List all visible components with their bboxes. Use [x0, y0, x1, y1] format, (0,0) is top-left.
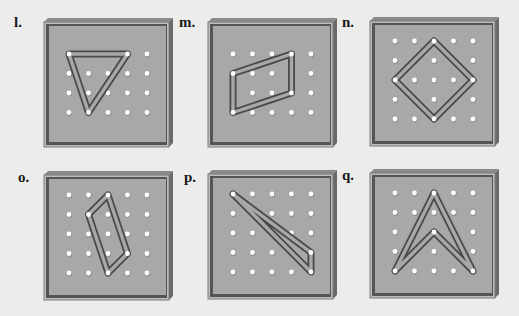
label-q: q. [342, 168, 354, 183]
peg [289, 211, 294, 216]
peg [393, 39, 398, 44]
peg [231, 211, 236, 216]
geoboard-n [369, 16, 499, 146]
peg [393, 58, 398, 63]
peg [270, 270, 275, 275]
peg [432, 78, 437, 83]
peg [106, 212, 111, 217]
peg [125, 91, 130, 96]
board-side-bevel [333, 170, 337, 299]
peg [471, 269, 476, 274]
peg [432, 39, 437, 44]
peg [231, 71, 236, 76]
geoboard-p [207, 169, 337, 299]
peg [309, 110, 314, 115]
peg [471, 58, 476, 63]
peg [250, 71, 255, 76]
peg [125, 110, 130, 115]
peg [67, 271, 72, 276]
label-m: m. [179, 15, 195, 30]
peg [451, 210, 456, 215]
peg [309, 270, 314, 275]
peg [432, 97, 437, 102]
peg [125, 232, 130, 237]
board-side-bevel [495, 169, 499, 298]
peg [451, 78, 456, 83]
geoboard-l [43, 17, 173, 147]
board-top-bevel [208, 18, 337, 22]
board-top-bevel [44, 18, 173, 22]
peg [412, 78, 417, 83]
board-side-bevel [495, 17, 499, 146]
board-top-bevel [370, 169, 499, 173]
peg [145, 271, 150, 276]
peg [393, 269, 398, 274]
peg [106, 110, 111, 115]
peg [289, 110, 294, 115]
peg [289, 270, 294, 275]
board-top-bevel [208, 170, 337, 174]
peg [250, 110, 255, 115]
peg [412, 210, 417, 215]
peg [125, 212, 130, 217]
peg [289, 52, 294, 57]
peg [250, 192, 255, 197]
peg [471, 230, 476, 235]
peg [451, 269, 456, 274]
peg [231, 52, 236, 57]
peg [270, 250, 275, 255]
peg [393, 117, 398, 122]
peg [67, 232, 72, 237]
peg [451, 191, 456, 196]
peg [270, 71, 275, 76]
peg [86, 71, 91, 76]
geoboard-o [43, 170, 173, 300]
geoboard-m [207, 17, 337, 147]
label-l: l. [14, 15, 22, 30]
peg [432, 269, 437, 274]
peg [432, 210, 437, 215]
peg [145, 71, 150, 76]
peg [125, 71, 130, 76]
peg [145, 52, 150, 57]
peg [270, 52, 275, 57]
peg [432, 117, 437, 122]
peg [412, 39, 417, 44]
peg [270, 91, 275, 96]
peg [471, 191, 476, 196]
peg [309, 231, 314, 236]
peg [471, 39, 476, 44]
peg [231, 250, 236, 255]
peg [250, 52, 255, 57]
peg [250, 270, 255, 275]
board-top-bevel [44, 171, 173, 175]
peg [393, 191, 398, 196]
peg [231, 110, 236, 115]
peg [309, 250, 314, 255]
peg [125, 271, 130, 276]
peg [309, 192, 314, 197]
peg [86, 193, 91, 198]
peg [309, 71, 314, 76]
peg [125, 251, 130, 256]
peg [145, 212, 150, 217]
peg [231, 270, 236, 275]
peg [125, 52, 130, 57]
peg [412, 269, 417, 274]
board-side-bevel [333, 18, 337, 147]
peg [145, 193, 150, 198]
peg [250, 91, 255, 96]
peg [270, 110, 275, 115]
peg [145, 110, 150, 115]
peg [289, 192, 294, 197]
peg [309, 52, 314, 57]
board-side-bevel [169, 18, 173, 147]
peg [471, 117, 476, 122]
peg [106, 193, 111, 198]
peg [231, 231, 236, 236]
peg [393, 249, 398, 254]
peg [67, 251, 72, 256]
peg [432, 58, 437, 63]
peg [145, 232, 150, 237]
peg [270, 211, 275, 216]
